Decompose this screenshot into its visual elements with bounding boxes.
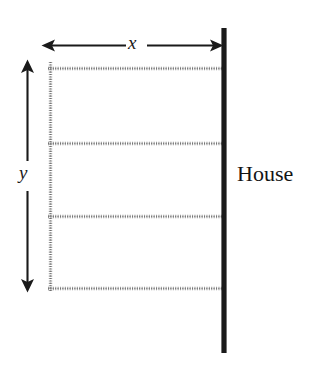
width-label: x: [128, 33, 136, 52]
height-label: y: [19, 163, 27, 182]
house-label: House: [237, 163, 293, 185]
fence-geometry-diagram: x y House: [0, 0, 321, 371]
